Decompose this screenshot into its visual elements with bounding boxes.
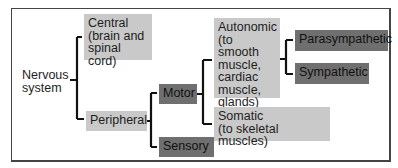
node-central: Central (brain and spinal cord) (84, 14, 152, 60)
root-label-nervous-system: Nervous system (22, 69, 72, 94)
node-autonomic: Autonomic (to smooth muscle, cardiac mus… (214, 18, 280, 98)
parasympathetic-label: Parasympathetic (299, 32, 392, 46)
autonomic-line-1: Autonomic (218, 21, 276, 34)
motor-label: Motor (163, 86, 195, 100)
node-parasympathetic: Parasympathetic (295, 30, 388, 51)
autonomic-line-2: (to smooth (218, 34, 276, 59)
somatic-line-1: Somatic (218, 110, 326, 123)
sensory-label: Sensory (163, 139, 209, 153)
node-sympathetic: Sympathetic (295, 63, 369, 84)
central-line-3: spinal cord) (88, 42, 148, 67)
sympathetic-label: Sympathetic (299, 65, 368, 79)
node-motor: Motor (159, 84, 197, 104)
peripheral-label: Peripheral (90, 113, 147, 127)
node-sensory: Sensory (159, 137, 214, 157)
somatic-line-2: (to skeletal muscles) (218, 123, 326, 148)
central-line-1: Central (88, 17, 148, 30)
node-peripheral: Peripheral (86, 111, 147, 131)
autonomic-line-4: cardiac (218, 71, 276, 84)
node-somatic: Somatic (to skeletal muscles) (214, 107, 330, 141)
